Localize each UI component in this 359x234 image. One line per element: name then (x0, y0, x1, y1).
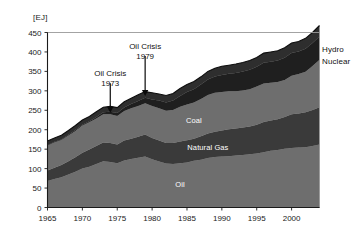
x-axis-tick-1965: 1965 (39, 214, 57, 223)
series-label-natural-gas: Natural Gas (187, 143, 228, 152)
x-axis-tick-1985: 1985 (178, 214, 196, 223)
y-axis-tick-50: 50 (8, 184, 42, 193)
annotation-oil-crisis-1979: Oil Crisis1979 (129, 42, 161, 62)
plot-canvas (0, 0, 359, 234)
x-axis-tick-2000: 2000 (283, 214, 301, 223)
x-axis-tick-1975: 1975 (108, 214, 126, 223)
side-label-nuclear: Nuclear (322, 57, 350, 66)
side-label-hydro: Hydro (322, 45, 344, 54)
series-label-oil: Oil (175, 180, 184, 189)
annotation-oil-crisis-1973: Oil Crisis1973 (94, 69, 126, 89)
x-axis-tick-1970: 1970 (73, 214, 91, 223)
annotation-line-1: Oil Crisis (94, 69, 126, 79)
y-axis-tick-200: 200 (8, 125, 42, 134)
annotation-line-1: Oil Crisis (129, 42, 161, 52)
y-axis-tick-300: 300 (8, 86, 42, 95)
annotation-line-2: 1979 (129, 52, 161, 62)
x-axis-tick-1990: 1990 (213, 214, 231, 223)
y-axis-tick-400: 400 (8, 47, 42, 56)
y-axis-tick-150: 150 (8, 145, 42, 154)
series-label-coal: Coal (186, 116, 202, 125)
y-axis-tick-250: 250 (8, 106, 42, 115)
y-axis-tick-0: 0 (8, 203, 42, 212)
y-axis-tick-350: 350 (8, 67, 42, 76)
y-axis-tick-450: 450 (8, 28, 42, 37)
x-axis-tick-1980: 1980 (143, 214, 161, 223)
annotation-line-2: 1973 (94, 79, 126, 89)
y-axis-tick-100: 100 (8, 164, 42, 173)
energy-consumption-area-chart: [EJ] 050100150200250300350400450 1965197… (0, 0, 359, 234)
x-axis-tick-1995: 1995 (248, 214, 266, 223)
